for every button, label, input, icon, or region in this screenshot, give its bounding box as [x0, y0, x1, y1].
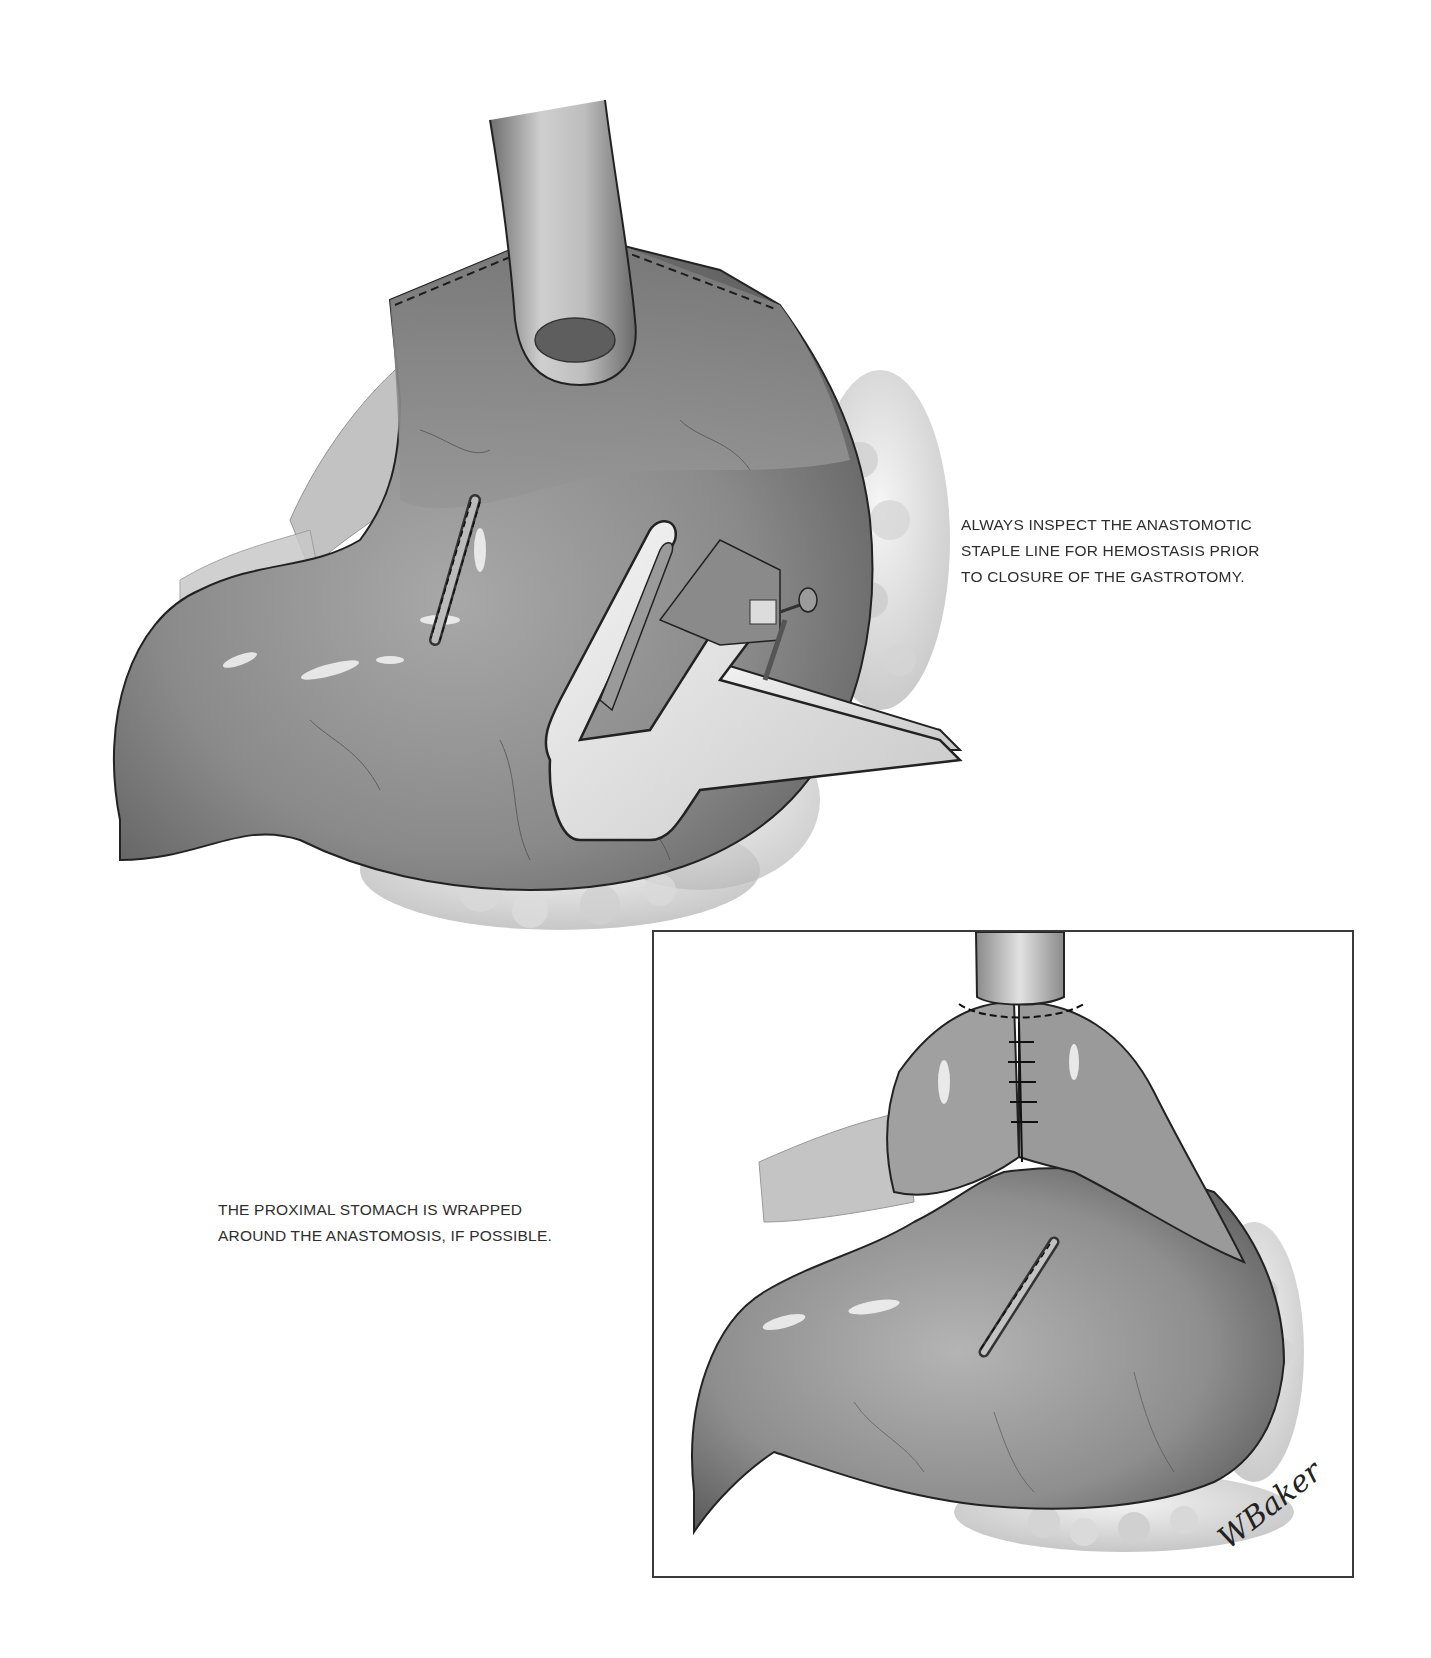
illustration-page: ALWAYS INSPECT THE ANASTOMOTIC STAPLE LI…: [0, 0, 1431, 1658]
caption-inspect-staple-line: ALWAYS INSPECT THE ANASTOMOTIC STAPLE LI…: [961, 512, 1260, 590]
caption-line: STAPLE LINE FOR HEMOSTASIS PRIOR: [961, 538, 1260, 564]
caption-line: TO CLOSURE OF THE GASTROTOMY.: [961, 564, 1260, 590]
esophagus-lumen: [535, 318, 615, 362]
caption-proximal-stomach-wrap: THE PROXIMAL STOMACH IS WRAPPED AROUND T…: [218, 1197, 552, 1249]
inset-esophagus: [976, 932, 1064, 1005]
inset-fundus-wrap-left: [887, 1002, 1019, 1195]
caption-line: ALWAYS INSPECT THE ANASTOMOTIC: [961, 512, 1260, 538]
caption-line: AROUND THE ANASTOMOSIS, IF POSSIBLE.: [218, 1223, 552, 1249]
caption-line: THE PROXIMAL STOMACH IS WRAPPED: [218, 1197, 552, 1223]
main-stomach-illustration: [60, 100, 1040, 960]
inset-stomach-wrap-illustration: [654, 932, 1352, 1576]
inset-frame: WBaker: [652, 930, 1354, 1578]
